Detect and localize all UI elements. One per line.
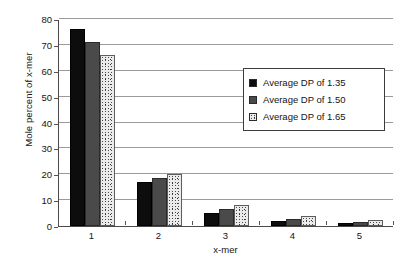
bar — [368, 220, 383, 226]
x-tick-label: 2 — [139, 230, 179, 241]
x-tick-label: 1 — [72, 230, 112, 241]
x-tick-mark — [58, 221, 59, 225]
y-tick-label: 70 — [22, 41, 52, 51]
x-tick-label: 4 — [273, 230, 313, 241]
x-tick-mark — [192, 221, 193, 225]
y-tick-label: 50 — [22, 93, 52, 103]
y-axis-tick-labels: 01020304050607080 — [22, 0, 52, 261]
bar — [204, 213, 219, 226]
legend-label: Average DP of 1.50 — [263, 95, 346, 105]
bar — [219, 209, 234, 226]
x-tick-label: 3 — [206, 230, 246, 241]
bar — [152, 178, 167, 226]
legend: Average DP of 1.35Average DP of 1.50Aver… — [243, 68, 385, 131]
bar — [301, 216, 316, 226]
y-tick-label: 0 — [22, 222, 52, 232]
bar-group — [59, 20, 126, 226]
x-tick-mark — [326, 221, 327, 225]
bar — [85, 42, 100, 226]
legend-item: Average DP of 1.35 — [249, 74, 378, 91]
x-axis-tick-labels: 12345 — [58, 228, 393, 244]
bar — [100, 55, 115, 226]
y-tick-label: 80 — [22, 15, 52, 25]
legend-swatch-icon — [249, 113, 257, 121]
legend-label: Average DP of 1.65 — [263, 112, 346, 122]
x-tick-mark — [125, 221, 126, 225]
bar — [271, 221, 286, 226]
y-tick-label: 40 — [22, 119, 52, 129]
y-tick-label: 10 — [22, 196, 52, 206]
gridline — [59, 18, 393, 19]
bar-group — [126, 20, 193, 226]
bar-chart: Mole percent of x-mer 01020304050607080 … — [0, 0, 417, 261]
bar — [286, 219, 301, 226]
legend-item: Average DP of 1.50 — [249, 91, 378, 108]
bar — [234, 205, 249, 226]
bar — [338, 223, 353, 226]
legend-swatch-icon — [249, 79, 257, 87]
legend-label: Average DP of 1.35 — [263, 78, 346, 88]
bar — [353, 222, 368, 226]
x-tick-mark — [259, 221, 260, 225]
x-axis-title: x-mer — [58, 244, 393, 255]
y-tick-label: 20 — [22, 170, 52, 180]
y-tick-label: 60 — [22, 67, 52, 77]
y-tick-label: 30 — [22, 144, 52, 154]
x-tick-mark — [393, 221, 394, 225]
bar — [70, 29, 85, 226]
legend-item: Average DP of 1.65 — [249, 108, 378, 125]
bar — [137, 182, 152, 226]
legend-swatch-icon — [249, 96, 257, 104]
bar — [167, 174, 182, 226]
x-tick-label: 5 — [340, 230, 380, 241]
